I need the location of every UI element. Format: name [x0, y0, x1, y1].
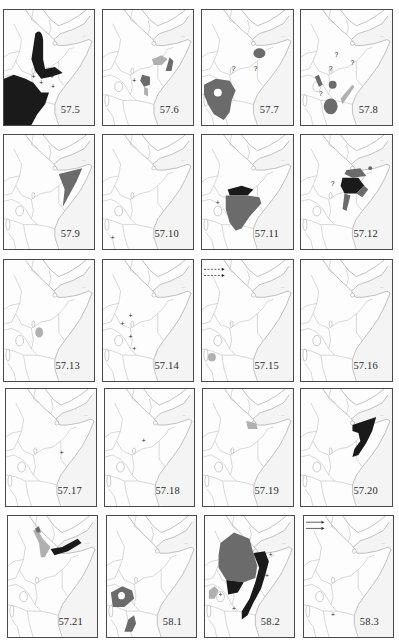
map-panel-57-9: 57.9	[3, 134, 95, 250]
map-label: 57.16	[353, 360, 378, 371]
svg-text:+: +	[132, 345, 136, 352]
map-label: 57.6	[160, 104, 179, 115]
map-label: 57.8	[359, 104, 378, 115]
map-panel-57-14: ++ ++ 57.14	[102, 259, 194, 382]
map-label: 57.10	[154, 228, 179, 239]
map-label: 57.7	[260, 104, 279, 115]
map-57-21	[8, 516, 97, 637]
svg-text:?: ?	[253, 65, 257, 72]
map-label: 58.3	[360, 616, 379, 627]
map-panel-57-20: 57.20	[300, 388, 393, 507]
map-57-19	[203, 389, 293, 506]
map-label: 57.21	[58, 616, 83, 627]
svg-text:?: ?	[335, 51, 339, 58]
map-panel-57-18: + 57.18	[104, 388, 195, 507]
svg-text:+: +	[219, 590, 223, 597]
svg-text:+: +	[121, 320, 125, 327]
map-57-5: ++ ++	[4, 10, 94, 125]
map-57-10: +	[103, 135, 193, 249]
map-57-14: ++ ++	[103, 260, 193, 381]
map-panel-58-3: + 58.3	[303, 515, 394, 638]
svg-text:+: +	[128, 332, 132, 339]
svg-text:+: +	[60, 449, 64, 456]
map-panel-57-7: ?? 57.7	[201, 9, 294, 126]
map-57-18: +	[105, 389, 194, 506]
map-57-17: +	[6, 389, 96, 506]
map-panel-58-2: ++ ++ 58.2	[204, 515, 295, 638]
map-57-7: ??	[202, 10, 293, 125]
svg-text:+: +	[132, 77, 136, 84]
map-label: 57.13	[55, 360, 80, 371]
svg-text:?: ?	[331, 180, 335, 187]
map-label: 58.2	[261, 616, 280, 627]
map-58-1	[107, 516, 196, 637]
svg-text:+: +	[50, 73, 54, 80]
svg-text:+: +	[128, 312, 132, 319]
map-58-3: +	[304, 516, 393, 637]
map-panel-57-17: + 57.17	[5, 388, 97, 507]
map-panel-57-11: + 57.11	[201, 134, 294, 250]
svg-text:?: ?	[329, 65, 333, 72]
svg-text:+: +	[269, 551, 273, 558]
svg-text:+: +	[216, 199, 220, 206]
map-57-20	[301, 389, 392, 506]
map-label: 57.15	[254, 360, 279, 371]
map-label: 57.18	[155, 485, 180, 496]
map-57-6: +	[103, 10, 193, 125]
map-panel-57-13: 57.13	[3, 259, 95, 382]
map-label: 58.1	[163, 616, 182, 627]
map-57-15	[202, 260, 293, 381]
map-57-9	[4, 135, 94, 249]
svg-text:?: ?	[232, 65, 236, 72]
solid-arrow-icon	[306, 521, 324, 530]
svg-text:+: +	[31, 73, 35, 80]
map-57-12: ?	[301, 135, 392, 249]
svg-text:+: +	[39, 79, 43, 86]
map-57-13	[4, 260, 94, 381]
svg-text:+: +	[331, 611, 335, 618]
map-label: 57.12	[353, 228, 378, 239]
map-panel-57-10: + 57.10	[102, 134, 194, 250]
map-label: 57.5	[61, 104, 80, 115]
map-panel-57-15: 57.15	[201, 259, 294, 382]
map-57-11: +	[202, 135, 293, 249]
svg-text:+: +	[265, 572, 269, 579]
map-57-16	[301, 260, 392, 381]
svg-text:+: +	[111, 234, 115, 241]
map-label: 57.19	[254, 485, 279, 496]
map-panel-57-21: 57.21	[7, 515, 98, 638]
svg-text:+: +	[51, 83, 55, 90]
map-label: 57.11	[255, 228, 279, 239]
map-58-2: ++ ++	[205, 516, 294, 637]
map-panel-57-16: 57.16	[300, 259, 393, 382]
map-label: 57.20	[353, 485, 378, 496]
map-panel-57-8: ?? ?? 57.8	[300, 9, 393, 126]
map-panel-57-6: + 57.6	[102, 9, 194, 126]
map-panel-57-12: ? 57.12	[300, 134, 393, 250]
map-label: 57.14	[154, 360, 179, 371]
map-57-8: ?? ??	[301, 10, 392, 125]
svg-text:+: +	[232, 605, 236, 612]
svg-text:?: ?	[319, 91, 323, 98]
svg-text:+: +	[142, 437, 146, 444]
map-panel-57-5: ++ ++ 57.5	[3, 9, 95, 126]
map-label: 57.9	[61, 228, 80, 239]
dashed-arrow-icon	[204, 268, 225, 277]
map-panel-57-19: 57.19	[202, 388, 294, 507]
map-label: 57.17	[57, 485, 82, 496]
map-panel-58-1: 58.1	[106, 515, 197, 638]
svg-text:?: ?	[350, 59, 354, 66]
